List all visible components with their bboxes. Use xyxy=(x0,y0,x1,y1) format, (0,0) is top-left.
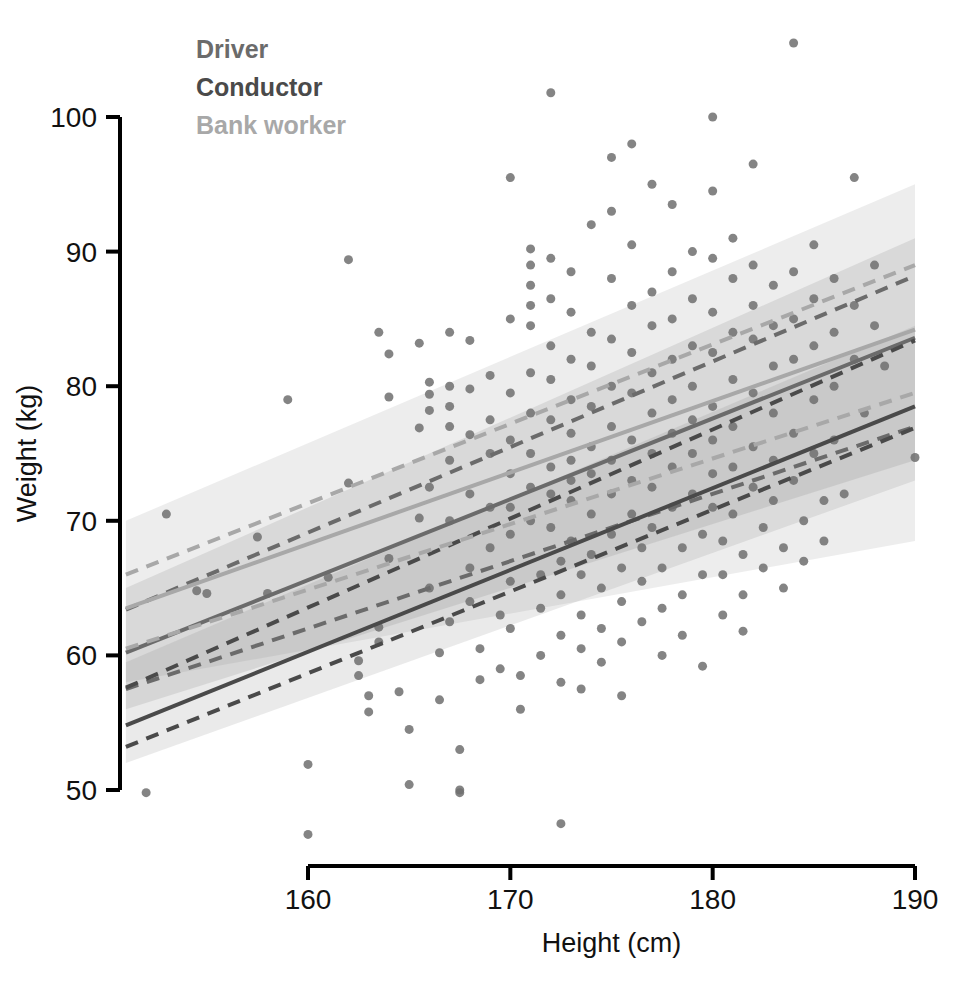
legend-item-driver: Driver xyxy=(196,35,269,63)
y-tick-label: 100 xyxy=(50,102,97,133)
data-point xyxy=(708,254,717,263)
data-point xyxy=(627,348,636,357)
data-point xyxy=(688,382,697,391)
data-point xyxy=(607,335,616,344)
data-point xyxy=(749,301,758,310)
data-point xyxy=(142,788,151,797)
y-tick-label: 90 xyxy=(66,237,97,268)
data-point xyxy=(304,760,313,769)
data-point xyxy=(617,597,626,606)
data-point xyxy=(708,436,717,445)
data-point xyxy=(567,456,576,465)
y-axis-title: Weight (kg) xyxy=(12,385,42,523)
data-point xyxy=(668,200,677,209)
data-point xyxy=(870,261,879,270)
data-point xyxy=(647,180,656,189)
data-point xyxy=(496,664,505,673)
data-point xyxy=(880,362,889,371)
data-point xyxy=(374,328,383,337)
data-point xyxy=(435,648,444,657)
data-point xyxy=(415,423,424,432)
data-point xyxy=(526,301,535,310)
data-point xyxy=(526,321,535,330)
data-point xyxy=(688,247,697,256)
data-point xyxy=(597,658,606,667)
data-point xyxy=(354,656,363,665)
data-point xyxy=(769,496,778,505)
data-point xyxy=(728,274,737,283)
data-point xyxy=(658,563,667,572)
data-point xyxy=(830,274,839,283)
y-tick-label: 70 xyxy=(66,506,97,537)
data-point xyxy=(830,328,839,337)
data-point xyxy=(425,406,434,415)
data-point xyxy=(799,557,808,566)
data-point xyxy=(779,543,788,552)
data-point xyxy=(749,261,758,270)
data-point xyxy=(779,584,788,593)
data-point xyxy=(364,691,373,700)
data-point xyxy=(617,691,626,700)
data-point xyxy=(546,341,555,350)
data-point xyxy=(587,510,596,519)
data-point xyxy=(486,543,495,552)
data-point xyxy=(465,489,474,498)
data-point xyxy=(698,530,707,539)
data-point xyxy=(405,725,414,734)
data-point xyxy=(587,362,596,371)
data-point xyxy=(516,671,525,680)
data-point xyxy=(809,341,818,350)
data-point xyxy=(637,543,646,552)
data-point xyxy=(435,695,444,704)
data-point xyxy=(344,255,353,264)
data-point xyxy=(445,456,454,465)
data-point xyxy=(415,514,424,523)
data-point xyxy=(425,483,434,492)
data-point xyxy=(739,590,748,599)
data-point xyxy=(415,339,424,348)
y-tick-label: 60 xyxy=(66,640,97,671)
data-point xyxy=(283,395,292,404)
data-point xyxy=(445,402,454,411)
data-point xyxy=(658,604,667,613)
data-point xyxy=(739,627,748,636)
data-point xyxy=(506,503,515,512)
data-point xyxy=(627,139,636,148)
data-point xyxy=(354,671,363,680)
data-point xyxy=(718,570,727,579)
data-point xyxy=(708,348,717,357)
x-axis-title: Height (cm) xyxy=(542,928,682,958)
data-point xyxy=(718,536,727,545)
scatter-plot-figure: 5060708090100160170180190Height (cm)Weig… xyxy=(0,0,961,986)
data-point xyxy=(739,550,748,559)
data-point xyxy=(486,415,495,424)
data-point xyxy=(202,589,211,598)
data-point xyxy=(577,570,586,579)
data-point xyxy=(637,617,646,626)
data-point xyxy=(425,378,434,387)
data-point xyxy=(728,462,737,471)
data-point xyxy=(536,651,545,660)
data-point xyxy=(556,590,565,599)
data-point xyxy=(556,678,565,687)
data-point xyxy=(567,308,576,317)
data-point xyxy=(617,637,626,646)
data-point xyxy=(506,314,515,323)
data-point xyxy=(587,328,596,337)
data-point xyxy=(668,314,677,323)
data-point xyxy=(688,449,697,458)
data-point xyxy=(728,328,737,337)
data-point xyxy=(647,321,656,330)
data-point xyxy=(526,261,535,270)
data-point xyxy=(445,382,454,391)
data-point xyxy=(546,489,555,498)
data-point xyxy=(627,240,636,249)
data-point xyxy=(475,644,484,653)
data-point xyxy=(597,584,606,593)
data-point xyxy=(465,430,474,439)
data-point xyxy=(607,153,616,162)
data-point xyxy=(819,536,828,545)
data-point xyxy=(627,301,636,310)
y-tick-label: 50 xyxy=(66,775,97,806)
x-tick-label: 160 xyxy=(285,884,332,915)
